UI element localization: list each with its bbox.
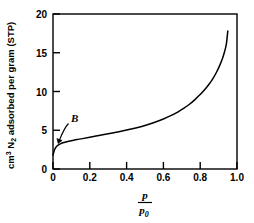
y-tick-label: 10	[36, 87, 48, 98]
x-title-numerator: p	[141, 189, 148, 201]
x-tick-label: 0.2	[83, 172, 97, 183]
x-title-denominator: p0	[138, 204, 149, 219]
plot-frame	[53, 14, 237, 169]
y-title-rest: adsorbed per gram (STP)	[5, 22, 16, 138]
x-tick-label: 1.0	[230, 172, 244, 183]
chart-canvas: 20 15 10 5 0 0 0.2 0.4 0.6 0.8 1.0 B cm3…	[0, 0, 254, 223]
x-tick-label: 0.6	[156, 172, 170, 183]
y-tick-label: 5	[41, 125, 47, 136]
isotherm-curve	[53, 31, 228, 155]
adsorption-isotherm-figure: 20 15 10 5 0 0 0.2 0.4 0.6 0.8 1.0 B cm3…	[0, 0, 254, 223]
y-axis-title-text: cm3 N2 adsorbed per gram (STP)	[5, 22, 17, 169]
x-tick-label: 0.8	[193, 172, 207, 183]
y-title-n: N	[5, 142, 16, 152]
x-title-den-sub: 0	[145, 210, 149, 219]
annotation-arrow-icon	[59, 124, 69, 142]
y-tick-labels: 20 15 10 5 0	[36, 9, 48, 175]
x-axis-title: p p0	[138, 189, 152, 219]
x-axis-ticks	[53, 162, 237, 169]
annotation-b: B	[57, 112, 78, 144]
x-tick-labels: 0 0.2 0.4 0.6 0.8 1.0	[50, 172, 244, 183]
y-tick-label: 20	[36, 9, 48, 20]
y-title-cm: cm	[5, 155, 16, 169]
annotation-b-label: B	[70, 112, 78, 124]
x-tick-label: 0.4	[120, 172, 134, 183]
x-tick-label: 0	[50, 172, 56, 183]
y-axis-title: cm3 N2 adsorbed per gram (STP)	[5, 22, 17, 169]
y-tick-label: 0	[41, 164, 47, 175]
y-tick-label: 15	[36, 48, 48, 59]
